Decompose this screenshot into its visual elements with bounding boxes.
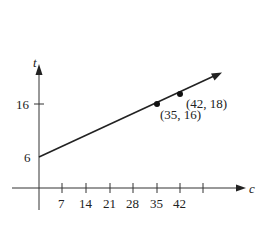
line-arrow-icon [211,73,222,81]
x-tick-label-7: 7 [58,197,65,210]
chart-canvas [0,0,260,227]
x-tick-label-14: 14 [79,197,92,210]
x-axis-label: c [249,182,255,195]
y-axis-label: t [33,56,37,69]
y-tick-label-6: 6 [24,151,31,164]
x-tick-label-21: 21 [103,197,116,210]
x-tick-label-35: 35 [150,197,163,210]
x-axis-arrow-icon [236,185,246,192]
point-42-18 [177,91,183,97]
point-label-42-18: (42, 18) [186,97,227,110]
y-tick-label-16: 16 [16,98,29,111]
x-tick-label-28: 28 [126,197,139,210]
x-tick-label-42: 42 [173,197,186,210]
